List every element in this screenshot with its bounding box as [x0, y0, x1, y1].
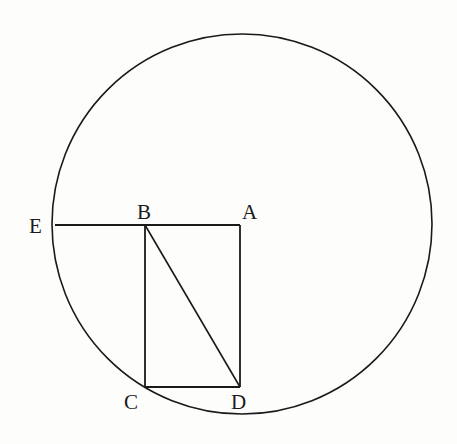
segment-BD	[145, 225, 240, 387]
label-A: A	[242, 200, 258, 224]
label-B: B	[137, 200, 151, 224]
label-D: D	[231, 390, 246, 414]
geometry-diagram: E B A C D	[0, 0, 457, 444]
label-E: E	[29, 214, 42, 238]
circle	[52, 34, 432, 414]
label-C: C	[124, 390, 138, 414]
